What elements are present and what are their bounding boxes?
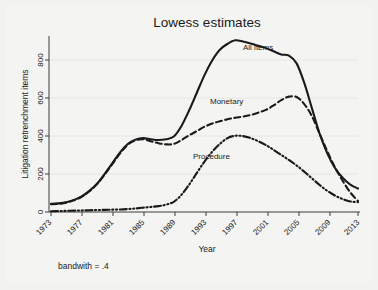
y-tick-label-600: 600 — [36, 91, 45, 105]
lowess-estimates-chart: 800 600 400 200 0 Litigation retrenchmen… — [0, 0, 378, 290]
x-tick-label-2001: 2001 — [251, 218, 270, 237]
series-line-monetary — [51, 96, 358, 204]
x-tick-label-2013: 2013 — [342, 218, 361, 237]
x-tick-label-1981: 1981 — [96, 218, 115, 237]
chart-title: Lowess estimates — [153, 15, 261, 30]
y-axis-title: Litigation retrenchment items — [20, 69, 30, 178]
x-tick-label-1997: 1997 — [220, 218, 239, 237]
x-axis-title: Year — [198, 244, 215, 254]
y-tick-labels: 800 600 400 200 0 — [36, 53, 45, 214]
series-label-procedure: Procedure — [193, 152, 230, 161]
bandwidth-note: bandwith = .4 — [58, 261, 109, 271]
x-tick-label-2009: 2009 — [313, 218, 332, 237]
series-label-all-items: All items — [243, 43, 273, 52]
y-tick-label-200: 200 — [36, 167, 45, 181]
chart-figure: 800 600 400 200 0 Litigation retrenchmen… — [0, 0, 378, 290]
x-tick-label-1973: 1973 — [34, 218, 53, 237]
series-line-procedure — [51, 136, 358, 212]
series-paths — [51, 40, 358, 211]
x-tick-label-1977: 1977 — [65, 218, 84, 237]
x-tick-label-1993: 1993 — [189, 218, 208, 237]
x-tick-label-2005: 2005 — [282, 218, 301, 237]
series-label-monetary: Monetary — [210, 97, 243, 106]
y-tick-label-400: 400 — [36, 129, 45, 143]
x-tick-label-1989: 1989 — [158, 218, 177, 237]
y-tick-label-800: 800 — [36, 53, 45, 67]
x-tick-labels: 1973 1977 1981 1985 1989 1993 1997 2001 … — [34, 218, 361, 237]
x-tick-label-1985: 1985 — [127, 218, 146, 237]
y-tick-label-0: 0 — [36, 209, 45, 214]
